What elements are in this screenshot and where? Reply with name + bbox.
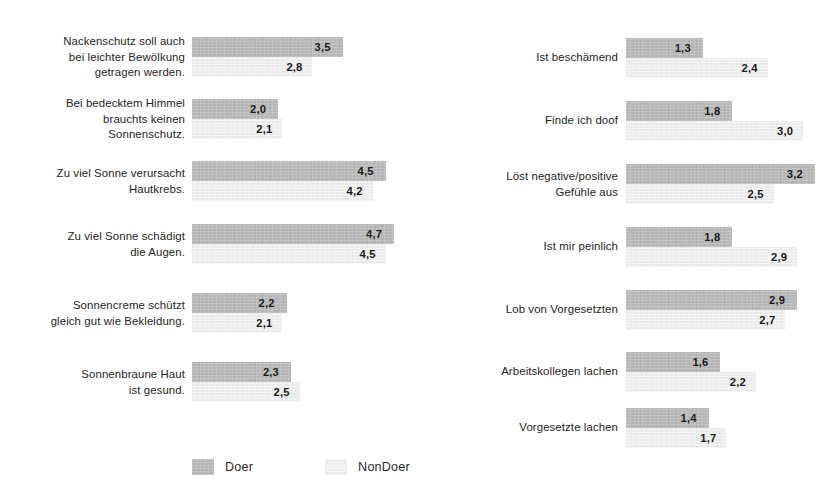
bar-value-nondoer: 2,5 (748, 184, 764, 204)
bar-value-doer: 3,2 (787, 164, 803, 184)
legend-item-nondoer: NonDoer (325, 459, 410, 475)
grouped-bar-chart: Nackenschutz soll auch bei leichter Bewö… (0, 0, 835, 498)
bar-value-doer: 2,2 (259, 293, 275, 313)
bar-pair: 4,54,2 (192, 161, 416, 201)
category-label: Lob von Vorgesetzten (442, 302, 618, 318)
category-label: Ist mir peinlich (442, 239, 618, 255)
bar-group: Finde ich doof1,83,0 (420, 101, 835, 141)
bar-pair: 1,62,2 (626, 352, 833, 392)
bar-pair: 2,22,1 (192, 293, 416, 333)
bar-value-nondoer: 2,4 (742, 58, 758, 78)
bar-pair: 1,41,7 (626, 408, 833, 448)
bar-value-nondoer: 2,8 (286, 57, 302, 77)
bar-value-nondoer: 1,7 (700, 428, 716, 448)
bar-value-doer: 1,6 (692, 352, 708, 372)
bar-group: Vorgesetzte lachen1,41,7 (420, 408, 835, 448)
legend-label-nondoer: NonDoer (358, 460, 410, 474)
bar-pair: 2,32,5 (192, 362, 416, 402)
bar-pair: 3,52,8 (192, 37, 416, 77)
bar-value-nondoer: 3,0 (777, 121, 793, 141)
category-label: Sonnenbraune Haut ist gesund. (6, 367, 185, 398)
bar-doer (192, 161, 386, 181)
bar-pair: 3,22,5 (626, 164, 833, 204)
bar-value-nondoer: 2,1 (256, 119, 272, 139)
bar-group: Ist beschämend1,32,4 (420, 38, 835, 78)
bar-group: Ist mir peinlich1,82,9 (420, 227, 835, 267)
bar-nondoer (192, 244, 386, 264)
bar-pair: 1,32,4 (626, 38, 833, 78)
bar-value-doer: 4,7 (366, 224, 382, 244)
bar-value-nondoer: 2,2 (730, 372, 746, 392)
bar-group: Sonnenbraune Haut ist gesund.2,32,5 (0, 362, 420, 402)
bar-value-nondoer: 4,5 (360, 244, 376, 264)
category-label: Arbeitskollegen lachen (442, 364, 618, 380)
bar-value-nondoer: 2,9 (771, 247, 787, 267)
bar-value-doer: 1,4 (681, 408, 697, 428)
chart-panel-right: Ist beschämend1,32,4Finde ich doof1,83,0… (420, 0, 835, 498)
bar-group: Zu viel Sonne verursacht Hautkrebs.4,54,… (0, 161, 420, 201)
category-label: Finde ich doof (442, 113, 618, 129)
bar-group: Lob von Vorgesetzten2,92,7 (420, 290, 835, 330)
category-label: Bei bedecktem Himmel brauchts keinen Son… (6, 96, 185, 143)
bar-group: Arbeitskollegen lachen1,62,2 (420, 352, 835, 392)
legend-swatch-nondoer (325, 459, 347, 475)
bar-pair: 4,74,5 (192, 224, 416, 264)
category-label: Vorgesetzte lachen (442, 420, 618, 436)
bar-group: Sonnencreme schützt gleich gut wie Bekle… (0, 293, 420, 333)
chart-legend: Doer NonDoer (192, 456, 410, 478)
bar-group: Nackenschutz soll auch bei leichter Bewö… (0, 37, 420, 77)
bar-doer (192, 224, 394, 244)
bar-value-doer: 3,5 (315, 37, 331, 57)
bar-value-doer: 2,9 (769, 290, 785, 310)
legend-label-doer: Doer (225, 460, 253, 474)
bar-value-doer: 1,8 (704, 227, 720, 247)
bar-nondoer (192, 181, 373, 201)
bar-group: Bei bedecktem Himmel brauchts keinen Son… (0, 99, 420, 139)
bar-value-nondoer: 2,1 (256, 313, 272, 333)
bar-group: Löst negative/positive Gefühle aus3,22,5 (420, 164, 835, 204)
bar-pair: 2,02,1 (192, 99, 416, 139)
legend-item-doer: Doer (192, 459, 253, 475)
category-label: Ist beschämend (442, 50, 618, 66)
bar-value-doer: 4,5 (358, 161, 374, 181)
bar-value-doer: 1,3 (675, 38, 691, 58)
category-label: Löst negative/positive Gefühle aus (442, 169, 618, 200)
bar-pair: 1,83,0 (626, 101, 833, 141)
bar-pair: 1,82,9 (626, 227, 833, 267)
bar-value-doer: 2,3 (263, 362, 279, 382)
bar-doer (626, 38, 703, 58)
bar-pair: 2,92,7 (626, 290, 833, 330)
category-label: Zu viel Sonne verursacht Hautkrebs. (6, 166, 185, 197)
category-label: Nackenschutz soll auch bei leichter Bewö… (6, 34, 185, 81)
category-label: Sonnencreme schützt gleich gut wie Bekle… (6, 298, 185, 329)
bar-value-doer: 2,0 (250, 99, 266, 119)
legend-swatch-doer (192, 459, 214, 475)
chart-panel-left: Nackenschutz soll auch bei leichter Bewö… (0, 0, 420, 498)
bar-value-doer: 1,8 (704, 101, 720, 121)
bar-value-nondoer: 2,7 (759, 310, 775, 330)
bar-value-nondoer: 4,2 (347, 181, 363, 201)
bar-value-nondoer: 2,5 (274, 382, 290, 402)
bar-group: Zu viel Sonne schädigt die Augen.4,74,5 (0, 224, 420, 264)
category-label: Zu viel Sonne schädigt die Augen. (6, 229, 185, 260)
